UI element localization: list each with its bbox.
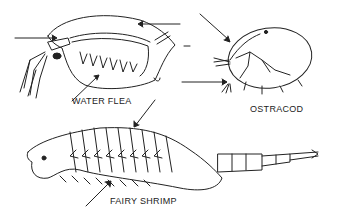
arrow-icon [200, 14, 229, 40]
ostracod-drawing [214, 22, 316, 94]
crustacean-diagram: WATER FLEA OSTRACOD FAIRY SHRIMP [0, 0, 348, 214]
arrow-icon [135, 100, 155, 126]
water-flea-drawing [20, 16, 175, 98]
label-water-flea: WATER FLEA [72, 96, 132, 106]
label-ostracod: OSTRACOD [250, 104, 303, 114]
ostracod-arrows [182, 14, 230, 85]
label-fairy-shrimp: FAIRY SHRIMP [110, 196, 177, 206]
arrow-icon [86, 182, 110, 206]
fairy-shrimp-drawing [27, 128, 318, 190]
